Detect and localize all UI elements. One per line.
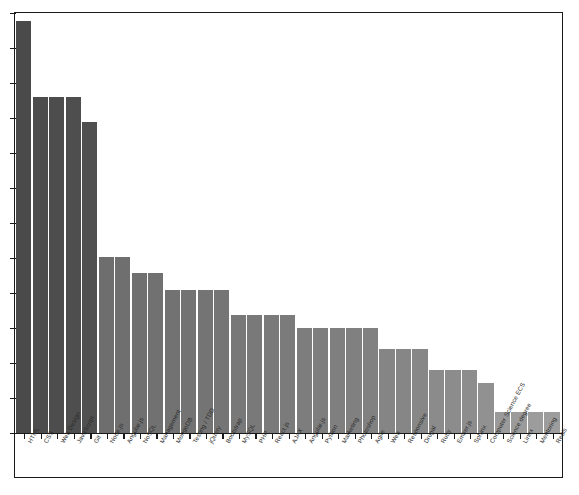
x-axis-tick [189, 434, 190, 439]
y-axis-tick [10, 118, 16, 119]
bar [231, 315, 246, 433]
y-axis-tick [10, 83, 16, 84]
x-axis-tick [255, 434, 256, 439]
bar [379, 349, 394, 433]
x-axis-tick [470, 434, 471, 439]
x-axis-tick [57, 434, 58, 439]
x-axis-tick [371, 434, 372, 439]
x-axis-tick [520, 434, 521, 439]
x-axis-tick [107, 434, 108, 439]
bar [115, 257, 130, 433]
y-axis-tick [10, 398, 16, 399]
bar-chart-figure: HTMLCSSWeb DesignJavaScriptGitNode.jsAng… [0, 0, 579, 495]
bar [198, 290, 213, 433]
x-axis-tick [41, 434, 42, 439]
bar [214, 290, 229, 433]
y-axis-tick [10, 48, 16, 49]
y-axis-tick [10, 223, 16, 224]
bar [33, 97, 48, 433]
bar [330, 328, 345, 433]
x-axis-tick [553, 434, 554, 439]
x-axis-tick [90, 434, 91, 439]
bar [264, 315, 279, 433]
x-axis-tick [24, 434, 25, 439]
bar [396, 349, 411, 433]
y-axis-tick [10, 363, 16, 364]
x-axis-tick [239, 434, 240, 439]
bar [544, 412, 559, 433]
x-axis-tick [454, 434, 455, 439]
x-axis-tick [140, 434, 141, 439]
bar [313, 328, 328, 433]
x-axis-tick [222, 434, 223, 439]
x-axis-tick [487, 434, 488, 439]
bar [148, 273, 163, 433]
y-axis-tick [10, 433, 16, 434]
x-axis-tick [355, 434, 356, 439]
x-axis-tick [536, 434, 537, 439]
bar [16, 21, 31, 433]
y-axis-tick [10, 328, 16, 329]
x-axis-tick [338, 434, 339, 439]
bar [495, 412, 510, 433]
x-axis-tick [156, 434, 157, 439]
x-axis-tick [272, 434, 273, 439]
x-axis-tick [322, 434, 323, 439]
y-axis-tick [10, 293, 16, 294]
bar [247, 315, 262, 433]
bar [445, 370, 460, 433]
x-axis-tick [206, 434, 207, 439]
x-axis-tick [437, 434, 438, 439]
y-axis-tick [10, 13, 16, 14]
bar [99, 257, 114, 433]
bar [49, 97, 64, 433]
bar [132, 273, 147, 433]
bar [412, 349, 427, 433]
y-axis-tick [10, 153, 16, 154]
bar [528, 412, 543, 433]
x-axis-tick [388, 434, 389, 439]
bar [297, 328, 312, 433]
bar [181, 290, 196, 433]
bar [346, 328, 361, 433]
bar [165, 290, 180, 433]
y-axis-tick [10, 258, 16, 259]
x-axis-tick [421, 434, 422, 439]
x-axis-tick [74, 434, 75, 439]
x-axis-tick [123, 434, 124, 439]
bar [82, 122, 97, 433]
x-axis-tick [173, 434, 174, 439]
x-axis-tick [503, 434, 504, 439]
bar [363, 328, 378, 433]
x-axis-tick [305, 434, 306, 439]
bar [429, 370, 444, 433]
x-axis-tick [404, 434, 405, 439]
y-axis-tick [10, 188, 16, 189]
bar [478, 383, 493, 433]
x-axis-tick [289, 434, 290, 439]
bar [462, 370, 477, 433]
bar [66, 97, 81, 433]
bar [511, 412, 526, 433]
bar-series [16, 13, 561, 433]
bar [280, 315, 295, 433]
